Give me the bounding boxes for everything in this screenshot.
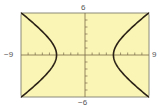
y-max-label: 6 <box>81 4 85 12</box>
y-min-label: −6 <box>78 99 87 107</box>
hyperbola-chart <box>0 0 159 107</box>
x-max-label: 9 <box>152 51 156 59</box>
x-min-label: −9 <box>4 51 13 59</box>
